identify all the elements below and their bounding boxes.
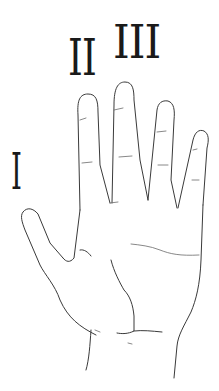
hand-outline-icon [0,0,219,391]
palm-right-outline [174,205,203,378]
thumb-web-outline [63,210,80,261]
palm-crease [131,244,199,255]
wrist-crease [134,331,162,332]
hand-diagram: I II III [0,0,219,391]
label-thumb-numeral: I [11,147,21,197]
label-index-numeral: II [68,33,96,83]
middle-finger-outline [112,82,148,203]
ring-finger-outline [148,101,177,208]
wrist-inner-line [111,260,134,334]
wrist-left-line [86,330,91,370]
label-middle-numeral: III [113,18,160,65]
little-finger-outline [178,130,208,208]
thumb-outline [22,209,96,335]
index-finger-outline [78,94,110,210]
